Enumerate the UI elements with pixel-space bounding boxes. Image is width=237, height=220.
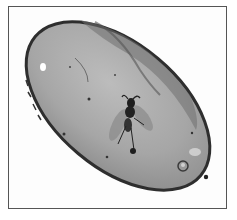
amber-photo bbox=[0, 0, 237, 220]
amber-stone bbox=[0, 0, 237, 220]
highlight bbox=[40, 63, 46, 71]
